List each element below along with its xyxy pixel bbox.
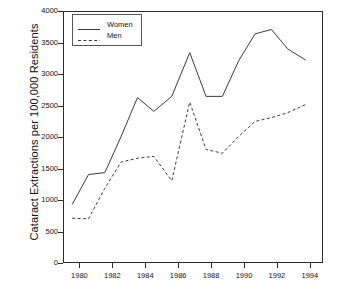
series-line-women [72,30,305,205]
cataract-extractions-line-chart: Cataract Extractions per 100,000 Residen… [0,0,341,297]
y-tick-label: 1000 [41,196,58,204]
x-tick-label: 1984 [137,272,154,280]
x-tick-label: 1990 [236,272,253,280]
y-tick-label: 2000 [41,133,58,141]
y-tick-label: 500 [45,228,58,236]
legend-item-men: Men [78,30,133,41]
x-tick-label: 1982 [104,272,121,280]
x-tick-label: 1994 [301,272,318,280]
y-tick-label: 2500 [41,102,58,110]
series-lines [64,12,322,262]
series-line-men [72,102,305,219]
plot-area [63,11,323,263]
x-tick-label: 1986 [170,272,187,280]
x-tick-mark [244,263,245,268]
y-tick-label: 3000 [41,70,58,78]
x-tick-mark [277,263,278,268]
y-tick-label: 4000 [41,7,58,15]
y-tick-label: 0 [54,259,58,267]
legend-label: Men [107,32,122,40]
x-tick-label: 1988 [203,272,220,280]
x-tick-mark [112,263,113,268]
chart-legend: WomenMen [72,14,142,46]
y-tick-mark [58,263,63,264]
legend-label: Women [107,21,133,29]
x-tick-mark [145,263,146,268]
x-tick-mark [79,263,80,268]
x-tick-mark [310,263,311,268]
y-axis-title: Cataract Extractions per 100,000 Residen… [28,2,40,262]
x-tick-label: 1992 [269,272,286,280]
y-tick-label: 1500 [41,165,58,173]
legend-swatch-dashed-icon [78,31,100,40]
x-tick-mark [211,263,212,268]
legend-item-women: Women [78,19,133,30]
x-tick-mark [178,263,179,268]
y-tick-label: 3500 [41,39,58,47]
x-tick-label: 1980 [71,272,88,280]
legend-swatch-solid-icon [78,20,100,29]
